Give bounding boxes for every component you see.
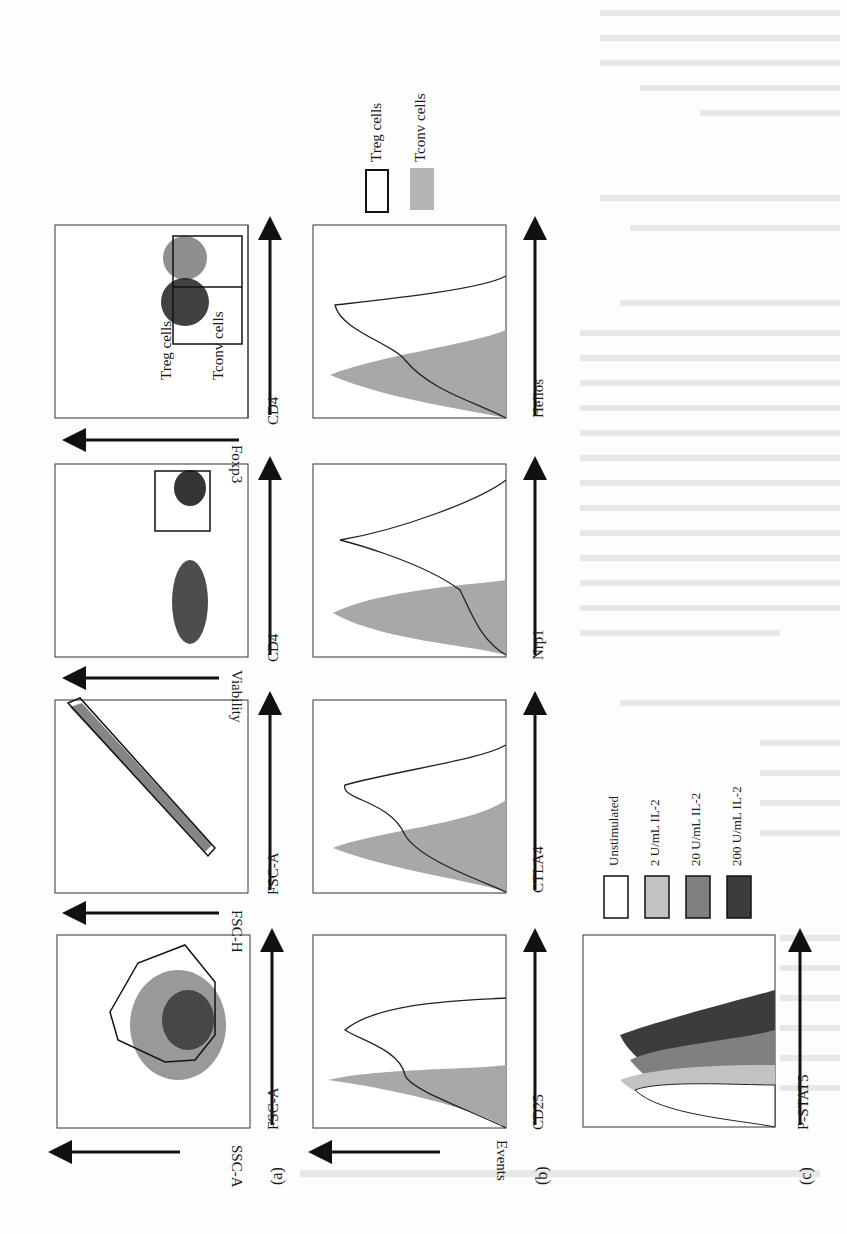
panel-a-ssca-fsca [57, 935, 272, 1152]
gate-label-tconv: Tconv cells [210, 311, 227, 380]
panel-b-nrp1 [313, 464, 535, 657]
legend-unstimulated-label: Unstimulated [606, 796, 622, 866]
xlabel-cd4-1: CD4 [265, 397, 282, 425]
panel-b-ctla4 [313, 700, 535, 893]
xlabel-helios: Helios [530, 379, 547, 418]
panel-a-viability-cd4 [55, 464, 270, 678]
xlabel-pstat5: P-STAT5 [795, 1075, 812, 1130]
xlabel-fsca-2: FSC-A [265, 1087, 282, 1130]
panel-c-pstat5 [583, 935, 800, 1127]
panel-label-b: (b) [533, 1166, 551, 1185]
xlabel-nrp1: Nrp1 [530, 629, 547, 660]
xlabel-cd25: CD25 [530, 1094, 547, 1130]
panel-a-fsch-fsca [55, 698, 270, 913]
ylabel-fsch: FSC-H [228, 910, 245, 953]
legend-200u-label: 200 U/mL IL-2 [729, 786, 745, 866]
legend-20u-label: 20 U/mL IL-2 [688, 793, 704, 866]
gate-label-treg: Treg cells [158, 321, 175, 380]
ylabel-foxp3: Foxp3 [228, 445, 245, 483]
legend-treg-tconv [366, 168, 434, 212]
ylabel-events: Events [493, 1140, 510, 1181]
legend-2u-label: 2 U/mL IL-2 [647, 799, 663, 866]
xlabel-ctla4: CTLA4 [530, 846, 547, 893]
legend-treg-label: Treg cells [368, 103, 385, 162]
panel-b-cd25 [313, 935, 535, 1152]
xlabel-cd4-2: CD4 [265, 634, 282, 662]
figure-canvas [0, 0, 847, 1234]
ylabel-ssca: SSC-A [228, 1145, 245, 1188]
xlabel-fsca-1: FSC-A [265, 852, 282, 895]
ylabel-viability: Viability [228, 670, 245, 722]
panel-label-c: (c) [797, 1167, 815, 1185]
panel-label-a: (a) [268, 1167, 286, 1185]
panel-b-helios [313, 225, 535, 418]
legend-il2 [604, 876, 751, 918]
legend-tconv-label: Tconv cells [412, 93, 429, 162]
